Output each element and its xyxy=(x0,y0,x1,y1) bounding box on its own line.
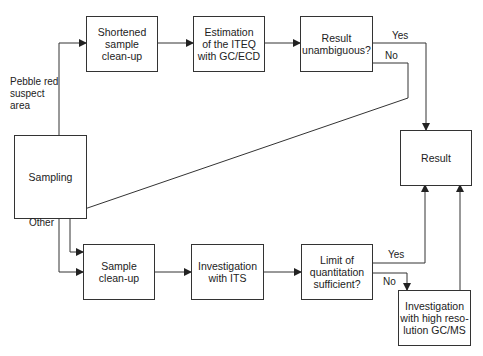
node-investigation-its: Investigation with ITS xyxy=(191,244,264,300)
node-result-unambiguous: Result unambiguous? xyxy=(300,16,373,72)
label-yes-bottom: Yes xyxy=(388,249,404,261)
node-sampling: Sampling xyxy=(14,135,87,219)
label-yes-top: Yes xyxy=(392,30,408,42)
node-shortened-sample-cleanup: Shortened sample clean-up xyxy=(86,16,158,72)
label-no-bottom: No xyxy=(383,276,396,288)
label-pebble-red: Pebble red suspect area xyxy=(10,76,58,112)
label-other: Other xyxy=(29,217,54,229)
node-estimation-iteq: Estimation of the ITEQ with GC/ECD xyxy=(193,16,265,72)
label-no-top: No xyxy=(385,50,398,62)
node-sample-cleanup: Sample clean-up xyxy=(83,244,155,300)
node-high-resolution-gcms: Investigation with high reso- lution GC/… xyxy=(398,290,471,346)
node-limit-of-quantitation: Limit of quantitation sufficient? xyxy=(301,244,373,300)
node-result: Result xyxy=(400,130,472,186)
